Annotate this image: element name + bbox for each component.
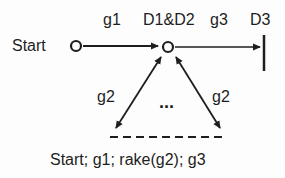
g2-right-label: g2 — [212, 89, 230, 105]
end-node-label: D3 — [250, 12, 270, 28]
start-node-circle — [71, 41, 81, 51]
ellipsis: ... — [159, 94, 174, 110]
g2-left-label: g2 — [97, 89, 115, 105]
middle-node-circle — [163, 42, 173, 52]
g1-label: g1 — [103, 12, 121, 28]
rake-diagram: Start g1 D1&D2 g3 D3 g2 g2 ... Start; g1… — [0, 0, 285, 178]
g3-label: g3 — [210, 12, 228, 28]
g2-left-double-arrow — [116, 57, 161, 128]
caption: Start; g1; rake(g2); g3 — [50, 152, 206, 168]
start-label: Start — [12, 38, 46, 54]
middle-node-label: D1&D2 — [143, 12, 195, 28]
